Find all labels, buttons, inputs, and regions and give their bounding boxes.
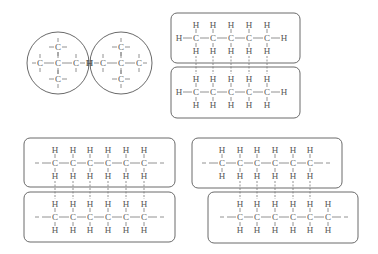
hydrogen-atom: H (123, 225, 130, 235)
hydrogen-atom: H (237, 145, 244, 155)
carbon-atom: C (246, 33, 252, 43)
hydrogen-atom: H (141, 199, 148, 209)
carbon-atom: C (264, 33, 270, 43)
carbon-atom: C (105, 158, 111, 168)
carbon-atom: C (219, 158, 225, 168)
carbon-atom: C (307, 212, 313, 222)
carbon-atom: C (123, 212, 129, 222)
hydrogen-atom: H (193, 74, 200, 84)
hydrogen-atom: H (193, 100, 200, 110)
carbon-atom: C (100, 58, 106, 68)
hydrogen-atom: H (86, 58, 93, 68)
hydrogen-atom: H (290, 199, 297, 209)
carbon-atom: C (70, 158, 76, 168)
hydrogen-atom: H (228, 100, 235, 110)
hydrogen-atom: H (141, 171, 148, 181)
carbon-atom: C (118, 58, 124, 68)
hydrogen-atom: H (210, 20, 217, 30)
hydrogen-atom: H (246, 46, 253, 56)
hydrogen-atom: H (254, 225, 261, 235)
carbon-atom: C (228, 33, 234, 43)
carbon-atom: C (123, 158, 129, 168)
carbon-atom: C (52, 212, 58, 222)
hydrogen-atom: H (141, 225, 148, 235)
carbon-atom: C (70, 212, 76, 222)
carbon-atom: C (246, 87, 252, 97)
hydrogen-atom: H (228, 46, 235, 56)
hydrogen-atom: H (87, 225, 94, 235)
hydrogen-atom: H (105, 199, 112, 209)
hydrogen-atom: H (272, 225, 279, 235)
hydrogen-atom: H (264, 74, 271, 84)
molecule-box (208, 192, 358, 243)
carbon-atom: C (237, 158, 243, 168)
hydrogen-atom: H (228, 20, 235, 30)
hydrogen-atom: H (105, 225, 112, 235)
pentane-pair-group: CHHCHHCHHCHHCHHHHCHHCHHCHHCHHCHHHH (171, 13, 300, 118)
carbon-atom: C (87, 158, 93, 168)
hydrogen-atom: H (264, 100, 271, 110)
carbon-atom: C (118, 42, 124, 52)
hydrogen-atom: H (254, 199, 261, 209)
hydrogen-atom: H (141, 145, 148, 155)
carbon-atom: C (87, 212, 93, 222)
hydrogen-atom: H (123, 145, 130, 155)
hydrogen-atom: H (105, 145, 112, 155)
carbon-atom: C (254, 158, 260, 168)
hydrogen-atom: H (193, 46, 200, 56)
hydrogen-atom: H (237, 171, 244, 181)
hydrogen-atom: H (246, 100, 253, 110)
hydrogen-atom: H (290, 225, 297, 235)
long-chain-aligned-group: CHHCHHCHHCHHCHHCHHCHHCHHCHHCHHCHHCHH (24, 138, 175, 242)
carbon-atom: C (210, 87, 216, 97)
hydrogen-atom: H (281, 33, 288, 43)
carbon-atom: C (290, 212, 296, 222)
hydrogen-atom: H (307, 225, 314, 235)
hydrogen-atom: H (123, 171, 130, 181)
hydrogen-atom: H (70, 171, 77, 181)
hydrogen-atom: H (87, 145, 94, 155)
carbon-atom: C (37, 58, 43, 68)
carbon-atom: C (118, 74, 124, 84)
hydrogen-atom: H (105, 171, 112, 181)
hydrogen-atom: H (70, 225, 77, 235)
carbon-atom: C (290, 158, 296, 168)
hydrogen-atom: H (325, 225, 332, 235)
hydrogen-atom: H (290, 145, 297, 155)
carbon-atom: C (193, 33, 199, 43)
hydrogen-atom: H (176, 33, 183, 43)
carbon-atom: C (136, 58, 142, 68)
carbon-atom: C (272, 212, 278, 222)
hydrogen-atom: H (272, 145, 279, 155)
carbon-atom: C (307, 158, 313, 168)
hydrogen-atom: H (210, 74, 217, 84)
carbon-atom: C (237, 212, 243, 222)
hydrogen-atom: H (70, 199, 77, 209)
branched-molecules-group: CCCCCHCCCCCH (27, 32, 152, 94)
hydrogen-atom: H (246, 74, 253, 84)
hydrogen-atom: H (272, 171, 279, 181)
carbon-atom: C (228, 87, 234, 97)
long-chain-offset-group: CHHCHHCHHCHHCHHCHHCHHCHHCHHCHHCHHCHH (192, 138, 358, 243)
hydrocarbon-diagram: CCCCCHCCCCCH CHHCHHCHHCHHCHHHHCHHCHHCHHC… (0, 0, 378, 254)
hydrogen-atom: H (237, 225, 244, 235)
hydrogen-atom: H (193, 20, 200, 30)
hydrogen-atom: H (307, 171, 314, 181)
hydrogen-atom: H (325, 199, 332, 209)
hydrogen-atom: H (290, 171, 297, 181)
hydrogen-atom: H (272, 199, 279, 209)
hydrogen-atom: H (87, 199, 94, 209)
hydrogen-atom: H (264, 46, 271, 56)
molecule-box (24, 138, 175, 187)
carbon-atom: C (193, 87, 199, 97)
carbon-atom: C (254, 212, 260, 222)
hydrogen-atom: H (254, 171, 261, 181)
hydrogen-atom: H (70, 145, 77, 155)
hydrogen-atom: H (52, 171, 59, 181)
hydrogen-atom: H (307, 145, 314, 155)
carbon-atom: C (73, 58, 79, 68)
hydrogen-atom: H (264, 20, 271, 30)
carbon-atom: C (264, 87, 270, 97)
hydrogen-atom: H (237, 199, 244, 209)
hydrogen-atom: H (254, 145, 261, 155)
